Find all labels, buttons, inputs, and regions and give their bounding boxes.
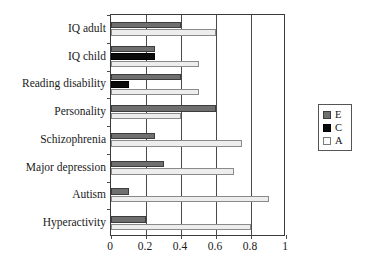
y-axis-category-label: Autism	[72, 188, 106, 200]
bar-a	[111, 61, 199, 67]
y-axis-tick	[107, 182, 111, 183]
bar-e	[111, 133, 155, 139]
y-axis-category-label: IQ adult	[68, 22, 106, 34]
bar-group	[111, 71, 284, 99]
legend-item-c: C	[323, 121, 351, 134]
legend-label-a: A	[335, 135, 343, 146]
bar-c	[111, 53, 155, 59]
legend-swatch-c	[323, 124, 331, 132]
chart-legend: E C A	[318, 104, 352, 151]
bar-group	[111, 15, 284, 43]
legend-swatch-a	[323, 137, 331, 145]
x-axis-tick-label: 1	[270, 240, 300, 253]
bar-a	[111, 224, 251, 230]
y-axis-tick	[107, 209, 111, 210]
plot-area	[110, 14, 285, 236]
bar-a	[111, 29, 216, 35]
y-axis-tick	[107, 43, 111, 44]
y-axis-category-label: IQ child	[68, 50, 106, 62]
bar-a	[111, 113, 181, 119]
legend-swatch-e	[323, 111, 331, 119]
bar-e	[111, 216, 146, 222]
bar-a	[111, 140, 242, 146]
bar-a	[111, 196, 269, 202]
bar-group	[111, 43, 284, 71]
bar-group	[111, 209, 284, 237]
legend-item-e: E	[323, 108, 351, 121]
x-axis-tick	[286, 235, 287, 239]
bar-e	[111, 74, 181, 80]
y-axis-tick	[107, 15, 111, 16]
bar-group	[111, 154, 284, 182]
y-axis-category-label: Major depression	[26, 161, 106, 173]
legend-item-a: A	[323, 134, 351, 147]
legend-label-c: C	[335, 122, 342, 133]
bar-group	[111, 98, 284, 126]
bar-c	[111, 81, 129, 87]
x-axis-tick-label: 0	[95, 240, 125, 253]
y-axis-category-label: Hyperactivity	[43, 216, 106, 228]
x-axis-tick-label: 0.6	[200, 240, 230, 253]
bar-e	[111, 188, 129, 194]
bar-e	[111, 161, 164, 167]
bar-chart-figure: E C A 00.20.40.60.81IQ adultIQ childRead…	[0, 0, 371, 270]
bar-e	[111, 46, 155, 52]
bar-e	[111, 22, 181, 28]
y-axis-tick	[107, 126, 111, 127]
bar-group	[111, 126, 284, 154]
y-axis-category-label: Schizophrenia	[40, 133, 106, 145]
bar-e	[111, 105, 216, 111]
y-axis-tick	[107, 154, 111, 155]
bar-group	[111, 182, 284, 210]
bar-a	[111, 89, 199, 95]
x-axis-tick-label: 0.4	[165, 240, 195, 253]
legend-label-e: E	[335, 109, 341, 120]
y-axis-category-label: Reading disability	[22, 77, 106, 89]
bar-a	[111, 168, 234, 174]
y-axis-category-label: Personality	[54, 105, 106, 117]
x-axis-tick-label: 0.8	[235, 240, 265, 253]
y-axis-tick	[107, 71, 111, 72]
x-axis-tick-label: 0.2	[130, 240, 160, 253]
y-axis-tick	[107, 98, 111, 99]
